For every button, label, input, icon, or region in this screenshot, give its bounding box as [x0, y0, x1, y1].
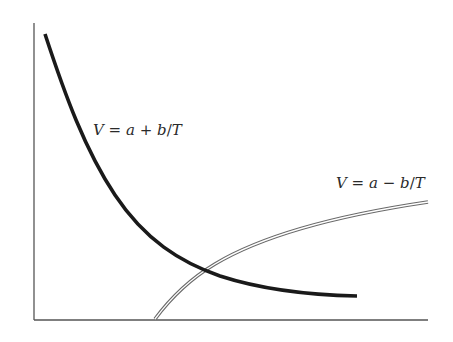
curve-a-plus-b-over-t	[45, 34, 357, 296]
label-curve-1: V = a + b/T	[93, 121, 183, 139]
label-curve-2: V = a − b/T	[336, 174, 426, 192]
curve-a-minus-b-over-t	[155, 202, 428, 319]
diagram: V = a + b/T V = a − b/T	[0, 0, 453, 342]
